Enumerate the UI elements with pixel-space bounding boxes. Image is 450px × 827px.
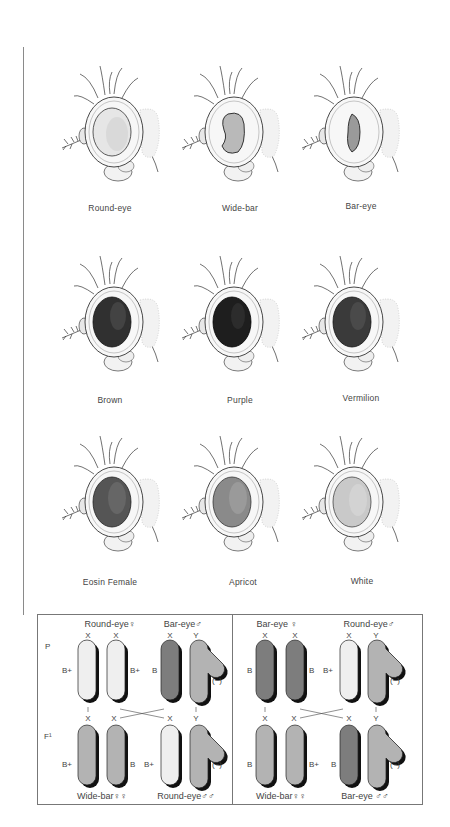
- chromosome-x-round: [107, 640, 128, 703]
- allele-label: (−): [212, 676, 222, 685]
- chromosome-x-bar: [286, 640, 307, 703]
- svg-text:X: X: [262, 714, 268, 723]
- allele-label: B: [331, 760, 336, 769]
- fly-label: Round-eye: [45, 203, 175, 213]
- fly-label: Eosin Female: [45, 577, 175, 587]
- chromosome-y: [190, 640, 228, 706]
- svg-text:Y: Y: [373, 631, 379, 640]
- chromosome-x-wide: [286, 725, 307, 788]
- chromosome-x-wide: [78, 725, 99, 788]
- allele-label: (−): [390, 760, 400, 769]
- fly-label: Brown: [45, 395, 175, 405]
- chromosome-y: [368, 640, 406, 706]
- svg-text:X: X: [291, 714, 297, 723]
- fly-head-illustration: [170, 250, 290, 380]
- svg-text:X: X: [262, 631, 268, 640]
- fly-bar-eye: [290, 60, 410, 190]
- chromosome-x-bar: [161, 640, 182, 703]
- bar-eye-cross-diagram: Round-eye♀ Bar-eye♂ P X X X Y: [37, 614, 423, 805]
- cross-panel-left: Round-eye♀ Bar-eye♂ P X X X Y: [38, 615, 232, 804]
- allele-label: B+: [309, 760, 319, 769]
- fly-label: Apricot: [178, 577, 308, 587]
- chromosome-y: [368, 725, 406, 791]
- fly-label: Wide-bar: [175, 203, 305, 213]
- svg-text:X: X: [85, 631, 91, 640]
- chromosome-x-round: [161, 725, 182, 788]
- offspring-male-label: Bar-eye ♂♂: [341, 791, 389, 801]
- parent-female-label: Round-eye♀: [85, 619, 136, 629]
- svg-text:X: X: [346, 714, 352, 723]
- fly-head-illustration: [50, 430, 170, 560]
- allele-label: B+: [144, 760, 154, 769]
- allele-label: B: [309, 666, 314, 675]
- page-margin-rule: [23, 47, 24, 615]
- allele-label: B: [152, 666, 157, 675]
- allele-label: B: [247, 666, 252, 675]
- fly-head-illustration: [50, 250, 170, 380]
- fly-head-illustration: [170, 430, 290, 560]
- fly-label: Vermilion: [296, 393, 426, 403]
- allele-label: B+: [62, 666, 72, 675]
- svg-text:X: X: [113, 631, 119, 640]
- chromosome-y: [190, 725, 228, 791]
- fly-head-illustration: [50, 60, 170, 190]
- fly-round-eye: [50, 60, 170, 190]
- fly-white: [290, 430, 410, 560]
- svg-text:Y: Y: [193, 714, 199, 723]
- offspring-male-label: Round-eye♂♂: [157, 791, 215, 801]
- generation-p-label: P: [45, 642, 50, 651]
- svg-text:Y: Y: [373, 714, 379, 723]
- svg-text:X: X: [85, 714, 91, 723]
- parent-female-label: Bar-eye ♀: [257, 619, 298, 629]
- fly-head-illustration: [170, 60, 290, 190]
- chromosome-x-round: [340, 640, 361, 703]
- cross-panel-right: Bar-eye ♀ Round-eye♂ X X X Y: [233, 615, 427, 804]
- fly-eosin-female: [50, 430, 170, 560]
- allele-label: (−): [212, 760, 222, 769]
- chromosome-x-wide: [107, 725, 128, 788]
- fly-purple: [170, 250, 290, 380]
- allele-label: B: [130, 760, 135, 769]
- generation-f1-label: F¹: [44, 732, 52, 741]
- fly-label: Bar-eye: [296, 201, 426, 211]
- fly-head-illustration: [290, 430, 410, 560]
- chromosome-x-bar: [340, 725, 361, 788]
- svg-text:Y: Y: [193, 631, 199, 640]
- allele-label: B+: [323, 666, 333, 675]
- parent-male-label: Round-eye♂: [344, 619, 395, 629]
- svg-text:X: X: [292, 631, 298, 640]
- allele-label: B: [247, 760, 252, 769]
- chromosome-x-wide: [256, 725, 277, 788]
- offspring-female-label: Wide-bar♀♀: [77, 791, 127, 801]
- fly-brown: [50, 250, 170, 380]
- fly-head-illustration: [290, 250, 410, 380]
- allele-label: B+: [130, 666, 140, 675]
- allele-label: (−): [390, 676, 400, 685]
- fly-vermilion: [290, 250, 410, 380]
- chromosome-x-bar: [256, 640, 277, 703]
- fly-wide-bar: [170, 60, 290, 190]
- offspring-female-label: Wide-bar♀♀: [256, 791, 306, 801]
- fly-apricot: [170, 430, 290, 560]
- fly-label: Purple: [175, 395, 305, 405]
- svg-text:X: X: [167, 631, 173, 640]
- fly-head-illustration: [290, 60, 410, 190]
- svg-text:X: X: [167, 714, 173, 723]
- fly-label: White: [297, 576, 427, 586]
- chromosome-x-round: [78, 640, 99, 703]
- parent-male-label: Bar-eye♂: [164, 619, 202, 629]
- svg-text:X: X: [111, 714, 117, 723]
- svg-text:X: X: [346, 631, 352, 640]
- allele-label: B+: [62, 760, 72, 769]
